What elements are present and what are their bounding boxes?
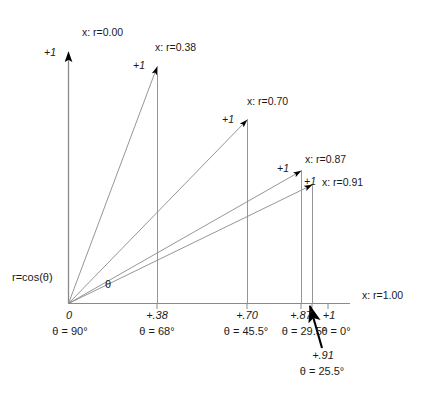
vector-label-r070: x: r=0.70: [247, 95, 288, 107]
angle-label-038: θ = 68°: [131, 325, 183, 338]
x-tick-label-070: +.70: [226, 309, 268, 322]
tip-label-r038: +1: [133, 59, 145, 71]
vector-label-r091: x: r=0.91: [322, 176, 363, 188]
vector-label-r087: x: r=0.87: [305, 153, 346, 165]
x-tick-label-087: +.87: [280, 309, 322, 322]
tip-label-r070: +1: [222, 113, 234, 125]
tip-label-r087: +1: [277, 162, 289, 174]
angle-label-100: θ = 0°: [310, 325, 362, 338]
tip-label-r000: +1: [44, 46, 56, 58]
angle-label-000: θ = 90°: [44, 325, 96, 338]
vector-label-r000: x: r=0.00: [82, 26, 123, 38]
theta-angle-label: θ: [105, 278, 111, 291]
vector-label-r100: x: r=1.00: [362, 289, 403, 301]
x-tick-label-038: +.38: [136, 309, 178, 322]
angle-label-070: θ = 45.5°: [214, 325, 278, 338]
angle-label-091: θ = 25.5°: [276, 365, 368, 378]
x-tick-label-100: +1: [318, 309, 340, 322]
vector-label-r038: x: r=0.38: [155, 41, 196, 53]
x-tick-label-091: +.91: [302, 349, 344, 362]
tip-label-r091: +1: [304, 175, 316, 187]
vector-line-r038: [69, 67, 158, 304]
x-tick-label-000: 0: [58, 309, 80, 322]
r-equals-cos-theta-label: r=cos(θ): [12, 271, 53, 284]
vector-line-r087: [69, 171, 302, 304]
cosine-vector-diagram: x: r=0.00 +1 x: r=0.38 +1 x: r=0.70 +1 x…: [0, 0, 440, 394]
